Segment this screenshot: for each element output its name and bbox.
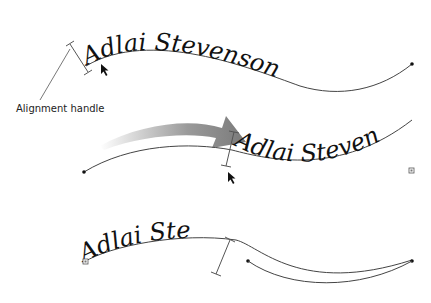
cursor-arrow-icon xyxy=(228,172,236,184)
bottom-panel: Adlai Ste xyxy=(72,216,413,283)
callout-label: Alignment handle xyxy=(16,103,105,114)
callout-leader-line xyxy=(40,49,70,100)
cursor-arrow-icon xyxy=(101,64,109,76)
middle-path-text: Adlai Steven xyxy=(229,121,384,168)
top-panel: Adlai Stevenson xyxy=(66,28,414,91)
bottom-path-text-flipped: Adlai Ste xyxy=(72,216,190,268)
diagram-canvas: Adlai Stevenson Alignment handle Adlai S… xyxy=(0,0,431,303)
path-endpoint[interactable] xyxy=(410,62,414,66)
transition-arrow-icon xyxy=(100,116,246,150)
middle-panel: Adlai Steven xyxy=(82,120,414,184)
path-endpoint[interactable] xyxy=(82,170,86,174)
alignment-handle-icon[interactable] xyxy=(211,237,235,276)
